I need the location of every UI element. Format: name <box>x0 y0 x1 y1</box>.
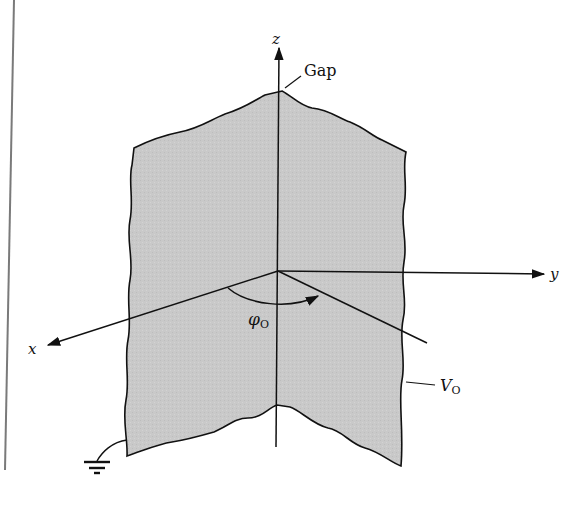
gap-label: Gap <box>304 61 337 80</box>
potential-label: VO <box>440 376 461 397</box>
z-axis-label: z <box>271 30 280 48</box>
ground-wire <box>97 440 127 461</box>
margin-rule <box>5 0 14 470</box>
angle-symbol: φ <box>248 309 260 329</box>
conducting-plates <box>125 91 406 466</box>
ground-symbol-icon <box>84 462 110 473</box>
potential-subscript: O <box>452 384 461 397</box>
angle-subscript: O <box>260 318 269 331</box>
plates-diagram: z y x Gap φO VO <box>0 0 588 509</box>
potential-leader <box>406 382 435 385</box>
gap-leader <box>285 76 301 88</box>
y-axis-label: y <box>549 265 559 283</box>
diagram-canvas: z y x Gap φO VO <box>0 0 588 509</box>
x-axis-label: x <box>28 340 37 358</box>
